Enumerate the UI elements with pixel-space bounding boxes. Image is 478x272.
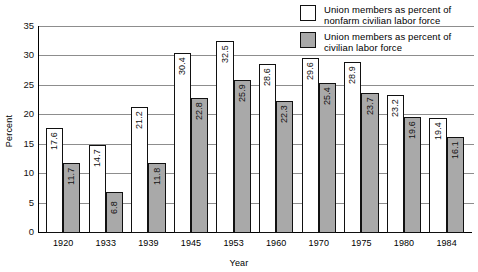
bar-value-label: 23.7 (366, 97, 375, 115)
x-tick-1970: 1970 (301, 238, 337, 248)
bar-value-label: 17.6 (50, 132, 59, 150)
bar-value-label: 11.8 (153, 167, 162, 184)
chart-canvas: 05101520253035 Percent Year 17.611.714.7… (0, 0, 478, 272)
legend-swatch-gray (300, 32, 316, 48)
legend-label-line1: Union members as percent of (324, 4, 451, 15)
gridline-20 (38, 114, 474, 115)
bar-value-label: 22.3 (280, 105, 289, 123)
bar (302, 58, 319, 233)
bar-value-label: 19.6 (408, 121, 417, 139)
bar (174, 53, 191, 233)
bar-value-label: 32.5 (221, 45, 230, 63)
x-tick-1933: 1933 (88, 238, 124, 248)
bar-value-label: 23.2 (391, 100, 400, 118)
bar (344, 62, 361, 233)
bar-value-label: 16.1 (451, 141, 460, 159)
x-tick-1920: 1920 (45, 238, 81, 248)
bar-value-label: 30.4 (178, 57, 187, 75)
x-tick-1980: 1980 (386, 238, 422, 248)
y-tick-35: 35 (16, 21, 34, 31)
bar (259, 64, 276, 233)
gridline-25 (38, 85, 474, 86)
x-tick-1984: 1984 (429, 238, 465, 248)
bar-value-label: 28.9 (348, 66, 357, 84)
y-tick-0: 0 (16, 227, 34, 237)
legend-label-line2: civilian labor force (324, 42, 451, 53)
bar-value-label: 25.4 (323, 87, 332, 105)
bar (234, 80, 251, 233)
y-axis-title: Percent (4, 105, 14, 157)
x-tick-1975: 1975 (343, 238, 379, 248)
legend-label: Union members as percent ofcivilian labo… (324, 31, 451, 53)
bar-value-label: 11.7 (67, 168, 76, 185)
legend-swatch-white (300, 5, 316, 21)
y-tick-15: 15 (16, 139, 34, 149)
legend-item: Union members as percent ofnonfarm civil… (300, 4, 451, 26)
bar-value-label: 28.6 (263, 68, 272, 86)
bar (319, 83, 336, 233)
y-tick-10: 10 (16, 168, 34, 178)
x-tick-1960: 1960 (258, 238, 294, 248)
bar-value-label: 6.8 (110, 201, 119, 214)
x-axis-title: Year (0, 258, 478, 268)
legend-label-line2: nonfarm civilian labor force (324, 15, 451, 26)
y-tick-30: 30 (16, 50, 34, 60)
legend-label: Union members as percent ofnonfarm civil… (324, 4, 451, 26)
x-tick-1945: 1945 (173, 238, 209, 248)
bar-value-label: 14.7 (93, 150, 102, 168)
bar-value-label: 22.8 (195, 102, 204, 120)
bar-value-label: 25.9 (238, 84, 247, 102)
bar (216, 41, 233, 233)
bar-value-label: 21.2 (135, 111, 144, 129)
chart-legend: Union members as percent ofnonfarm civil… (300, 4, 451, 58)
y-tick-25: 25 (16, 80, 34, 90)
bar-value-label: 19.4 (434, 122, 443, 140)
x-tick-1953: 1953 (216, 238, 252, 248)
y-tick-20: 20 (16, 109, 34, 119)
y-tick-5: 5 (16, 198, 34, 208)
x-tick-1939: 1939 (130, 238, 166, 248)
legend-label-line1: Union members as percent of (324, 31, 451, 42)
legend-item: Union members as percent ofcivilian labo… (300, 31, 451, 53)
bar-value-label: 29.6 (306, 62, 315, 80)
y-axis-line (38, 26, 39, 232)
